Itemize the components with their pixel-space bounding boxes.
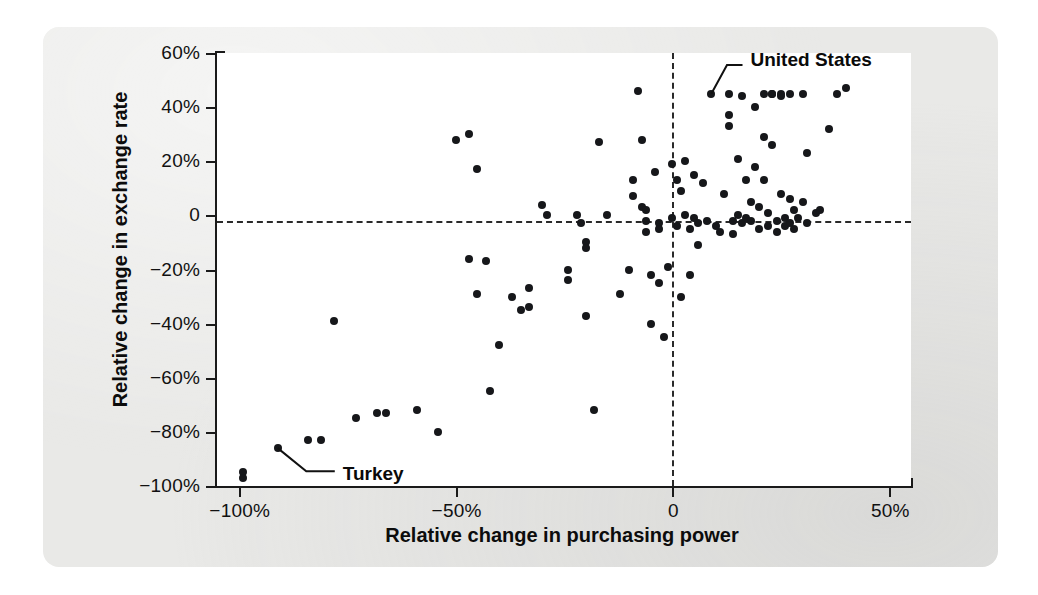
scatter-point bbox=[825, 125, 833, 133]
scatter-point bbox=[777, 190, 785, 198]
scatter-point bbox=[352, 414, 360, 422]
scatter-point bbox=[734, 211, 742, 219]
scatter-point bbox=[742, 176, 750, 184]
x-tick-label: 50% bbox=[871, 500, 910, 522]
scatter-point bbox=[473, 290, 481, 298]
scatter-point bbox=[525, 284, 533, 292]
annotation-label-turkey: Turkey bbox=[343, 463, 404, 485]
y-tick: −20% bbox=[206, 270, 217, 272]
y-tick-label: −100% bbox=[139, 475, 200, 497]
scatter-point bbox=[690, 171, 698, 179]
y-tick: −40% bbox=[206, 324, 217, 326]
scatter-point bbox=[647, 320, 655, 328]
scatter-point bbox=[673, 222, 681, 230]
y-tick-label: 40% bbox=[161, 96, 200, 118]
y-tick-label: 20% bbox=[161, 150, 200, 172]
y-tick: 0 bbox=[206, 215, 217, 217]
scatter-point bbox=[382, 409, 390, 417]
y-tick: 20% bbox=[206, 161, 217, 163]
scatter-point bbox=[816, 206, 824, 214]
scatter-point bbox=[677, 187, 685, 195]
scatter-point bbox=[673, 176, 681, 184]
scatter-point bbox=[495, 341, 503, 349]
scatter-point bbox=[747, 217, 755, 225]
scatter-point bbox=[803, 149, 811, 157]
scatter-point bbox=[486, 387, 494, 395]
scatter-point bbox=[842, 84, 850, 92]
scatter-point bbox=[543, 211, 551, 219]
annotation-label-united-states: United States bbox=[751, 49, 872, 71]
scatter-point bbox=[629, 176, 637, 184]
x-tick-label: −50% bbox=[432, 500, 482, 522]
y-tick: 60% bbox=[206, 53, 217, 55]
scatter-point bbox=[638, 136, 646, 144]
scatter-point bbox=[760, 176, 768, 184]
scatter-point bbox=[473, 165, 481, 173]
y-tick: −100% bbox=[206, 486, 217, 488]
scatter-point bbox=[768, 90, 776, 98]
x-tick: −100% bbox=[239, 486, 241, 497]
scatter-point bbox=[777, 90, 785, 98]
scatter-point bbox=[660, 333, 668, 341]
scatter-point bbox=[590, 406, 598, 414]
reference-line-vertical bbox=[672, 53, 674, 486]
scatter-point bbox=[239, 474, 247, 482]
y-tick: −60% bbox=[206, 378, 217, 380]
leader-line bbox=[278, 448, 335, 471]
x-tick: −50% bbox=[456, 486, 458, 497]
scatter-point bbox=[751, 163, 759, 171]
scatter-point bbox=[582, 312, 590, 320]
scatter-point bbox=[760, 133, 768, 141]
scatter-point bbox=[582, 244, 590, 252]
figure-root: 60%40%20%0−20%−40%−60%−80%−100% −100%−50… bbox=[0, 0, 1038, 595]
scatter-point bbox=[373, 409, 381, 417]
x-tick: 50% bbox=[889, 486, 891, 497]
scatter-point bbox=[603, 211, 611, 219]
y-axis-title: Relative change in exchange rate bbox=[109, 90, 132, 410]
scatter-point bbox=[634, 87, 642, 95]
y-tick-label: 0 bbox=[189, 204, 200, 226]
scatter-point bbox=[803, 219, 811, 227]
scatter-point bbox=[699, 179, 707, 187]
scatter-point bbox=[642, 217, 650, 225]
x-axis-right-cap bbox=[911, 478, 913, 488]
scatter-point bbox=[564, 266, 572, 274]
y-tick-label: −20% bbox=[150, 259, 200, 281]
scatter-point bbox=[465, 255, 473, 263]
scatter-point bbox=[317, 436, 325, 444]
scatter-point bbox=[686, 271, 694, 279]
scatter-point bbox=[738, 92, 746, 100]
scatter-point bbox=[651, 168, 659, 176]
scatter-point bbox=[508, 293, 516, 301]
scatter-point bbox=[764, 209, 772, 217]
scatter-point bbox=[465, 130, 473, 138]
scatter-point bbox=[703, 217, 711, 225]
scatter-point bbox=[725, 111, 733, 119]
scatter-point bbox=[773, 217, 781, 225]
scatter-point bbox=[773, 228, 781, 236]
scatter-point bbox=[595, 138, 603, 146]
scatter-point bbox=[517, 306, 525, 314]
scatter-point bbox=[573, 211, 581, 219]
scatter-point bbox=[720, 190, 728, 198]
scatter-point bbox=[452, 136, 460, 144]
scatter-point bbox=[833, 90, 841, 98]
scatter-point bbox=[799, 198, 807, 206]
scatter-point bbox=[707, 90, 715, 98]
scatter-point bbox=[664, 263, 672, 271]
scatter-point bbox=[642, 228, 650, 236]
scatter-point bbox=[304, 436, 312, 444]
scatter-point bbox=[681, 157, 689, 165]
scatter-point bbox=[725, 122, 733, 130]
scatter-point bbox=[760, 90, 768, 98]
scatter-point bbox=[538, 201, 546, 209]
scatter-point bbox=[716, 228, 724, 236]
scatter-point bbox=[642, 206, 650, 214]
scatter-point bbox=[647, 271, 655, 279]
scatter-point bbox=[747, 198, 755, 206]
y-tick-label: −40% bbox=[150, 313, 200, 335]
scatter-point bbox=[734, 155, 742, 163]
scatter-point bbox=[413, 406, 421, 414]
scatter-point bbox=[694, 219, 702, 227]
scatter-point bbox=[525, 303, 533, 311]
